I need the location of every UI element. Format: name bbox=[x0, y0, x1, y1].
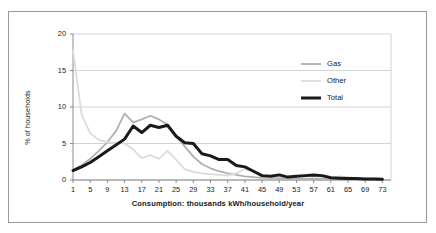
chart-frame: 15913172125293337414549535761656973 0510… bbox=[8, 11, 427, 223]
legend-swatches bbox=[301, 64, 321, 98]
series-line-total bbox=[73, 125, 382, 179]
data-series-group bbox=[73, 50, 382, 179]
y-axis-title: % of households bbox=[23, 68, 32, 168]
chart-figure: 15913172125293337414549535761656973 0510… bbox=[0, 0, 436, 233]
y-tick-label-0: 0 bbox=[46, 175, 66, 184]
series-line-gas bbox=[73, 114, 382, 180]
y-tick-label-5: 5 bbox=[46, 139, 66, 148]
legend-label-gas: Gas bbox=[327, 59, 341, 68]
x-tick-label-73: 73 bbox=[372, 185, 392, 194]
y-tick-label-20: 20 bbox=[46, 29, 66, 38]
legend-label-total: Total bbox=[327, 93, 343, 102]
y-tick-label-10: 10 bbox=[46, 102, 66, 111]
gridlines bbox=[73, 34, 391, 180]
x-axis-title: Consumption: thousands kWh/household/yea… bbox=[0, 199, 436, 208]
legend-label-other: Other bbox=[327, 76, 346, 85]
y-tick-label-15: 15 bbox=[46, 66, 66, 75]
